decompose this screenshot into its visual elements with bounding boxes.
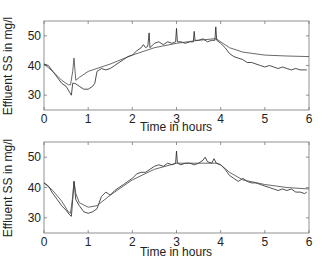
model-series-line [44,39,309,85]
x-tick-label: 5 [261,235,268,249]
x-tick-label: 0 [41,235,48,249]
model-series-line [44,163,309,213]
y-tick-label: 40 [28,59,42,73]
x-tick-label: 4 [217,112,224,126]
y-tick-label: 30 [28,211,42,225]
x-tick-label: 4 [217,235,224,249]
x-tick-label: 1 [85,235,92,249]
x-tick-label: 2 [129,235,136,249]
measured-series-line [44,151,307,216]
top-plot: 0123456304050 Time in hours Effluent SS … [1,17,313,134]
bottom-plot: 0123456304050 Time in hours Effluent SS … [1,139,313,259]
x-tick-label: 6 [306,235,313,249]
y-tick-label: 50 [28,29,42,43]
x-tick-label: 2 [129,112,136,126]
x-tick-label: 5 [261,112,268,126]
y-tick-label: 50 [28,150,42,164]
y-tick-label: 40 [28,181,42,195]
x-axis-label: Time in hours [140,120,212,134]
measured-series-line [44,27,307,95]
data-curves [44,27,309,95]
x-tick-label: 6 [306,112,313,126]
data-curves [44,151,309,216]
y-tick-label: 30 [28,88,42,102]
x-tick-label: 1 [85,112,92,126]
y-axis-label: Effluent SS in mg/l [1,139,15,238]
figure: 0123456304050 Time in hours Effluent SS … [0,0,327,269]
x-axis-label: Time in hours [140,245,212,259]
x-tick-label: 0 [41,112,48,126]
y-axis-label: Effluent SS in mg/l [1,17,15,116]
